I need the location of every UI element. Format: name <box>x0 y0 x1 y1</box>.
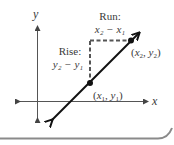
y-axis-label: y <box>32 7 39 21</box>
x-axis-label: x <box>151 94 158 108</box>
panel-bottom-border <box>0 128 172 139</box>
point-x1-y1 <box>87 80 93 86</box>
slope-diagram: x y (x1, y1) (x2, y2) Run: x₂ − x₁ Rise:… <box>0 0 174 145</box>
run-title: Run: <box>99 10 120 22</box>
point-label-x2-y2: (x2, y2) <box>131 46 161 60</box>
rise-expression: y₂ − y₁ <box>52 58 84 70</box>
point-x2-y2 <box>128 38 134 44</box>
point-label-x1-y1: (x1, y1) <box>93 89 123 103</box>
rise-title: Rise: <box>59 45 82 57</box>
run-expression: x₂ − x₁ <box>94 23 126 35</box>
